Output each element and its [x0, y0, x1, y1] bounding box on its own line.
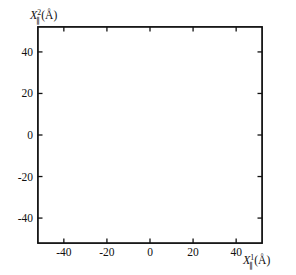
svg-text:X2∥(Å): X2∥(Å)	[29, 8, 57, 25]
lattice-dot	[69, 22, 72, 25]
lattice-dot	[214, 249, 217, 252]
y-axis-label: X2∥(Å)	[29, 8, 57, 25]
lattice-dot	[88, 22, 91, 25]
lattice-dot	[177, 249, 180, 252]
x-axis-label-unit: (Å)	[254, 253, 270, 267]
lattice-dot	[144, 22, 147, 25]
lattice-dot	[224, 249, 227, 252]
y-tick-label: -20	[18, 171, 34, 183]
lattice-dot	[74, 249, 77, 252]
lattice-dot	[116, 22, 119, 25]
lattice-dot	[243, 249, 246, 252]
x-axis-label: X1∥(Å)	[242, 253, 270, 270]
lattice-dot	[205, 249, 208, 252]
lattice-dot	[266, 163, 269, 166]
lattice-dot	[32, 38, 35, 41]
lattice-dot	[252, 249, 255, 252]
y-tick-label: -40	[18, 212, 34, 224]
lattice-dot	[257, 22, 260, 25]
lattice-dot	[266, 38, 269, 41]
lattice-dot	[266, 85, 269, 88]
lattice-dot	[83, 249, 86, 252]
lattice-dot	[27, 155, 30, 158]
lattice-dot	[135, 22, 138, 25]
lattice-dot	[261, 249, 264, 252]
lattice-dot	[51, 22, 54, 25]
lattice-dot	[266, 116, 269, 119]
lattice-dot	[107, 22, 110, 25]
y-tick-label: 0	[27, 129, 33, 141]
lattice-dot	[200, 22, 203, 25]
lattice-dot	[266, 132, 269, 135]
lattice-dot	[158, 249, 161, 252]
y-axis-label-subscript: ∥	[36, 16, 40, 25]
lattice-dot	[27, 202, 30, 205]
lattice-dot	[266, 179, 269, 182]
lattice-dot	[168, 249, 171, 252]
lattice-dot	[27, 124, 30, 127]
lattice-dot	[172, 22, 175, 25]
lattice-dot	[32, 241, 35, 244]
lattice-dot	[266, 210, 269, 213]
lattice-dot	[266, 54, 269, 57]
svg-text:X1∥(Å): X1∥(Å)	[242, 253, 270, 270]
x-tick-label: 40	[230, 246, 242, 258]
lattice-dot	[27, 30, 30, 33]
lattice-dot	[27, 61, 30, 64]
lattice-dot	[32, 69, 35, 72]
lattice-dot	[27, 249, 30, 252]
lattice-dot	[130, 249, 133, 252]
figure-container: -40-2002040 40200-20-40 X2∥(Å) X1∥(Å)	[0, 0, 296, 275]
lattice-dot	[210, 22, 213, 25]
lattice-dot	[27, 77, 30, 80]
lattice-dot	[266, 147, 269, 150]
lattice-dot	[266, 194, 269, 197]
lattice-dot	[41, 22, 44, 25]
scatter-plot: -40-2002040 40200-20-40 X2∥(Å) X1∥(Å)	[0, 0, 296, 275]
lattice-dot	[266, 69, 269, 72]
lattice-dot	[266, 241, 269, 244]
y-tick-label: 20	[22, 87, 34, 99]
lattice-dot	[229, 22, 232, 25]
lattice-dot	[266, 226, 269, 229]
lattice-dot	[32, 101, 35, 104]
lattice-dot	[93, 249, 96, 252]
lattice-dot	[32, 116, 35, 119]
lattice-dot	[125, 22, 128, 25]
y-tick-label: 40	[22, 46, 34, 58]
y-axis-tick-labels: 40200-20-40	[18, 46, 34, 224]
x-axis-label-subscript: ∥	[249, 261, 253, 270]
lattice-dot	[32, 226, 35, 229]
lattice-dot	[140, 249, 143, 252]
lattice-dot	[60, 22, 63, 25]
lattice-dot	[27, 234, 30, 237]
lattice-dot	[32, 22, 35, 25]
x-tick-label: -20	[99, 246, 115, 258]
lattice-dot	[154, 22, 157, 25]
x-axis-tick-labels: -40-2002040	[56, 246, 242, 258]
lattice-dot	[97, 22, 100, 25]
lattice-dot	[182, 22, 185, 25]
lattice-dot	[238, 22, 241, 25]
plot-frame-overlay	[38, 27, 262, 243]
lattice-dot	[219, 22, 222, 25]
x-tick-label: 0	[147, 246, 153, 258]
y-axis-label-unit: (Å)	[41, 8, 57, 22]
lattice-dot	[266, 22, 269, 25]
x-tick-label: 20	[187, 246, 199, 258]
lattice-dot	[163, 22, 166, 25]
lattice-dot	[247, 22, 250, 25]
lattice-dot	[191, 22, 194, 25]
lattice-dot	[27, 187, 30, 190]
x-tick-label: -40	[56, 246, 72, 258]
lattice-dot	[27, 108, 30, 111]
lattice-dot	[36, 249, 39, 252]
lattice-dot	[32, 147, 35, 150]
lattice-dot	[32, 194, 35, 197]
lattice-dot	[121, 249, 124, 252]
lattice-dot	[46, 249, 49, 252]
lattice-dot	[266, 101, 269, 104]
lattice-dot	[32, 163, 35, 166]
lattice-dot	[79, 22, 82, 25]
